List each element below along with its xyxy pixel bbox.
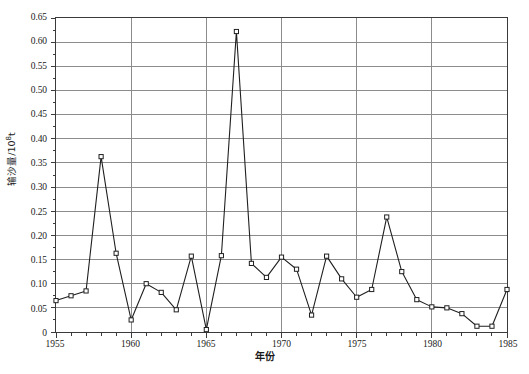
data-point-marker [114, 251, 118, 255]
data-point-marker [445, 306, 449, 310]
data-point-marker [84, 289, 88, 293]
data-point-marker [174, 308, 178, 312]
y-tick-label: 0.05 [31, 304, 47, 314]
data-point-marker [189, 254, 193, 258]
data-point-marker [144, 282, 148, 286]
data-point-marker [430, 305, 434, 309]
sediment-load-chart-figure: 输沙量/108t 0.650.600.550.500.450.400.350.3… [0, 0, 529, 374]
data-point-marker [505, 287, 509, 291]
data-point-marker [249, 261, 253, 265]
data-point-marker [370, 287, 374, 291]
plot-area [55, 17, 508, 333]
data-point-marker [159, 290, 163, 294]
data-point-marker [294, 267, 298, 271]
y-tick-label: 0.35 [31, 158, 47, 168]
data-point-marker [355, 295, 359, 299]
y-tick-label: 0.30 [31, 182, 47, 192]
y-tick-label: 0.55 [31, 61, 47, 71]
data-point-marker [340, 277, 344, 281]
y-tick-label: 0.20 [31, 231, 47, 241]
y-tick-label: 0.60 [31, 36, 47, 46]
x-axis-title: 年份 [0, 348, 529, 363]
y-tick-label: 0.65 [31, 12, 47, 22]
data-point-marker [99, 155, 103, 159]
data-point-marker [385, 215, 389, 219]
data-point-marker [325, 254, 329, 258]
data-point-marker [234, 29, 238, 33]
data-point-marker [129, 318, 133, 322]
y-axis-tick-labels: 0.650.600.550.500.450.400.350.300.250.20… [0, 17, 53, 333]
figure-caption [0, 366, 529, 374]
y-tick-label: 0.50 [31, 85, 47, 95]
data-point-marker [279, 255, 283, 259]
data-point-marker [54, 299, 58, 303]
data-point-marker [460, 312, 464, 316]
data-point-marker [204, 327, 208, 331]
data-point-marker [219, 254, 223, 258]
y-tick-label: 0.15 [31, 255, 47, 265]
y-tick-label: 0.10 [31, 279, 47, 289]
data-point-marker [309, 313, 313, 317]
data-point-marker [490, 324, 494, 328]
data-point-marker [400, 270, 404, 274]
data-point-marker [264, 275, 268, 279]
data-point-marker [69, 294, 73, 298]
y-tick-label: 0.40 [31, 134, 47, 144]
y-tick-label: 0.45 [31, 109, 47, 119]
y-tick-label: 0 [42, 328, 47, 338]
data-series-line [56, 18, 507, 332]
y-tick-label: 0.25 [31, 207, 47, 217]
data-point-marker [415, 298, 419, 302]
data-point-marker [475, 324, 479, 328]
